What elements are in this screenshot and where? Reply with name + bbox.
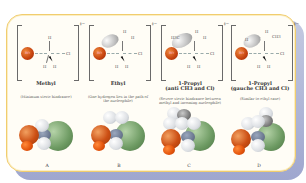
hydrogen-label: H (48, 35, 51, 40)
bracket-right (288, 25, 293, 81)
hydrogen-label: H (123, 29, 126, 34)
bond-c-c (194, 41, 195, 51)
bond-h-top (49, 41, 50, 51)
hydrogen-sphere (37, 137, 51, 150)
panel-note: (Minimum steric hindrance) (13, 95, 79, 99)
hydrogen-sphere (251, 139, 265, 152)
partial-bond-leaving (265, 53, 279, 54)
panel-methyl: ‡− HO Cl H H H Methyl (Minimum steric hi… (13, 21, 79, 109)
panel-ethyl: ‡− HO Cl H H H H Ethyl (One hydrogen lie… (85, 21, 151, 109)
methyl-label: H3C (171, 35, 180, 40)
panel-subtitle: (gauche CH3 and Cl) (231, 85, 290, 91)
figure-frame: ‡− HO Cl H H H Methyl (Minimum steric hi… (6, 14, 296, 172)
panel-note: (One hydrogen lies in the path of the nu… (85, 95, 151, 103)
hydrogen-sphere (187, 117, 201, 130)
bond-c-c (264, 41, 265, 51)
charge-label: ‡− (294, 21, 299, 26)
bracket-right (218, 25, 223, 81)
partial-bond-leaving (195, 53, 209, 54)
panel-propyl-gauche: ‡− H HO Cl H CH3 H H 1-Propyl(gauche CH3… (227, 21, 293, 109)
hydrogen-label: H (245, 37, 248, 42)
panel-title: 1-Propyl(anti CH3 and Cl) (157, 81, 223, 91)
space-filling-model-c: C (159, 107, 219, 159)
hydrogen-label: H (43, 64, 46, 69)
hydrogen-label: H (125, 64, 128, 69)
hydrogen-label: H (131, 35, 134, 40)
partial-bond-leaving (51, 53, 65, 54)
panel-title: 1-Propyl(gauche CH3 and Cl) (227, 81, 293, 91)
hydrogen-label: H (257, 64, 260, 69)
model-label: C (159, 163, 219, 168)
hydrogen-label: H (187, 64, 190, 69)
hydroxide-atom: HO (93, 47, 106, 60)
hydroxide-atom: HO (165, 47, 178, 60)
methyl-label: CH3 (272, 34, 281, 39)
oxygen-hydrogen-sphere (163, 145, 175, 155)
panel-propyl-anti: ‡− H3C HO Cl H H H H 1-Propyl(anti CH3 a… (157, 21, 223, 109)
hydrogen-label: H (53, 64, 56, 69)
bracket-right (146, 25, 151, 81)
hydroxide-atom: HO (235, 47, 248, 60)
hydrogen-label: H (115, 64, 118, 69)
hydrogen-sphere (109, 137, 123, 150)
partial-bond-nucleophile (179, 53, 191, 54)
chlorine-label: Cl (138, 51, 142, 56)
bond-c-c (122, 41, 123, 51)
oxygen-hydrogen-sphere (93, 141, 105, 151)
partial-bond-leaving (123, 53, 137, 54)
panel-subtitle: (anti CH3 and Cl) (165, 85, 214, 91)
partial-bond-nucleophile (35, 53, 47, 54)
model-label: B (89, 163, 149, 168)
chlorine-label: Cl (280, 51, 284, 56)
wedge-bond (121, 56, 126, 62)
chlorine-label: Cl (210, 51, 214, 56)
partial-bond-nucleophile (249, 53, 261, 54)
model-label: A (17, 163, 77, 168)
panel-note: (Severe steric hindrance between methyl … (157, 97, 223, 105)
space-filling-model-a: A (17, 107, 77, 159)
wedge-bond (193, 56, 198, 62)
chlorine-label: Cl (66, 51, 70, 56)
wedge-bond (49, 56, 54, 62)
hydroxide-atom: HO (21, 47, 34, 60)
oxygen-hydrogen-sphere (21, 141, 33, 151)
hydrogen-label: H (265, 29, 268, 34)
panel-title: Methyl (13, 81, 79, 86)
hydrogen-sphere (115, 111, 129, 124)
hydrogen-label: H (197, 64, 200, 69)
panel-title: Ethyl (85, 81, 151, 86)
model-label: D (229, 163, 289, 168)
oxygen-hydrogen-sphere (233, 145, 245, 155)
hydrogen-sphere (251, 115, 265, 128)
bracket-right (74, 25, 79, 81)
hydrogen-label: H (203, 35, 206, 40)
wedge-bond (263, 56, 268, 62)
space-filling-model-d: D (229, 107, 289, 159)
space-filling-model-b: B (89, 107, 149, 159)
hydrogen-label: H (267, 64, 270, 69)
panel-note: (Similar to ethyl case) (227, 97, 293, 101)
partial-bond-nucleophile (107, 53, 119, 54)
hydrogen-label: H (195, 29, 198, 34)
hydrogen-sphere (181, 139, 195, 152)
